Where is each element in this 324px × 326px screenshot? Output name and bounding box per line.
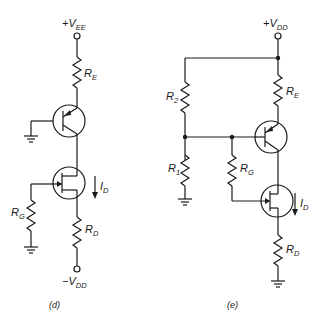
- resistor-rg-e: [228, 155, 236, 186]
- pnp-transistor-e: [255, 121, 287, 186]
- resistor-rd-d: [73, 217, 81, 248]
- jfet-e: [261, 185, 293, 235]
- ground-icon: [24, 247, 38, 253]
- ground-icon: [24, 136, 38, 142]
- circuit-diagram: +VEE RE: [0, 0, 324, 326]
- label-vdd: +VDD: [263, 17, 288, 32]
- label-neg-vdd: −VDD: [62, 275, 87, 290]
- label-rg-e: RG: [240, 162, 254, 177]
- label-rd-e: RD: [286, 243, 300, 258]
- label-re-d: RE: [84, 67, 98, 82]
- label-re-e: RE: [286, 85, 300, 100]
- ground-icon: [271, 281, 285, 287]
- label-rd-d: RD: [85, 223, 99, 238]
- resistor-rg-d: [27, 200, 35, 231]
- circuit-e: +VDD R2 R1 RG RE: [166, 17, 309, 310]
- circuit-d: +VEE RE: [11, 17, 109, 310]
- label-r2: R2: [166, 90, 179, 105]
- label-vee: +VEE: [62, 17, 87, 32]
- jfet-d: [31, 167, 85, 217]
- resistor-rd-e: [274, 235, 282, 266]
- ground-icon: [178, 199, 192, 205]
- pnp-transistor-d: [53, 105, 85, 168]
- resistor-re-d: [73, 57, 81, 88]
- resistor-re-e: [274, 75, 282, 106]
- label-rg-d: RG: [11, 206, 25, 221]
- supply-terminal-vee: [74, 33, 80, 39]
- resistor-r2: [181, 82, 189, 113]
- caption-e: (e): [227, 300, 238, 310]
- label-id-e: ID: [300, 197, 309, 212]
- caption-d: (d): [49, 300, 60, 310]
- supply-terminal-neg-vdd: [74, 266, 80, 272]
- label-id-d: ID: [100, 180, 109, 195]
- label-r1: R1: [168, 162, 180, 177]
- supply-terminal-vdd: [275, 33, 281, 39]
